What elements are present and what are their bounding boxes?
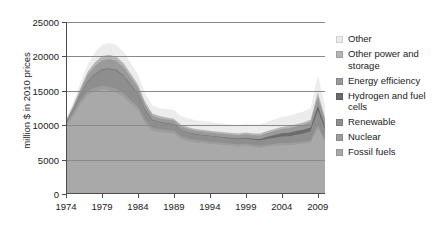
gridline: [66, 22, 325, 23]
plot-area: 0500010000150002000025000 19741979198419…: [66, 22, 325, 194]
legend-item[interactable]: Hydrogen and fuel cells: [336, 90, 436, 113]
y-tick-label: 25000: [33, 17, 66, 28]
legend-item[interactable]: Fossil fuels: [336, 146, 436, 158]
legend-label: Other: [348, 33, 372, 45]
legend-item[interactable]: Other power and storage: [336, 48, 436, 71]
legend-swatch-icon: [336, 78, 343, 85]
legend-item[interactable]: Energy efficiency: [336, 75, 436, 87]
y-tick-label: 10000: [33, 120, 66, 131]
legend-swatch-icon: [336, 93, 343, 100]
legend-swatch-icon: [336, 51, 343, 58]
legend-swatch-icon: [336, 36, 343, 43]
y-tick-label: 20000: [33, 51, 66, 62]
y-tick-mark: [62, 125, 66, 126]
y-tick-mark: [62, 91, 66, 92]
chart-legend: OtherOther power and storageEnergy effic…: [336, 33, 436, 161]
x-tick-mark: [282, 194, 283, 198]
x-tick-mark: [318, 194, 319, 198]
y-axis-line: [66, 22, 67, 194]
stacked-area-series: [66, 22, 325, 194]
x-tick-mark: [246, 194, 247, 198]
x-tick-label: 1989: [163, 201, 184, 212]
x-tick-label: 2004: [271, 201, 292, 212]
y-axis-title: million $ in 2010 prices: [21, 21, 32, 181]
x-tick-mark: [210, 194, 211, 198]
legend-label: Renewable: [348, 116, 396, 128]
legend-label: Fossil fuels: [348, 146, 396, 158]
x-tick-label: 1974: [55, 201, 76, 212]
y-tick-mark: [62, 160, 66, 161]
x-tick-label: 1984: [127, 201, 148, 212]
x-tick-label: 1994: [199, 201, 220, 212]
x-tick-label: 2009: [307, 201, 328, 212]
y-tick-mark: [62, 22, 66, 23]
x-tick-mark: [66, 194, 67, 198]
x-axis-line: [66, 193, 325, 194]
gridline: [66, 56, 325, 57]
y-tick-mark: [62, 56, 66, 57]
chart-figure: million $ in 2010 prices 050001000015000…: [0, 0, 436, 226]
gridline: [66, 125, 325, 126]
legend-item[interactable]: Renewable: [336, 116, 436, 128]
legend-label: Energy efficiency: [348, 75, 420, 87]
x-tick-label: 1999: [235, 201, 256, 212]
gridline: [66, 91, 325, 92]
legend-item[interactable]: Other: [336, 33, 436, 45]
legend-label: Hydrogen and fuel cells: [348, 90, 436, 113]
x-tick-mark: [138, 194, 139, 198]
x-tick-label: 1979: [91, 201, 112, 212]
legend-label: Other power and storage: [348, 48, 436, 71]
legend-item[interactable]: Nuclear: [336, 131, 436, 143]
gridline: [66, 160, 325, 161]
x-tick-mark: [174, 194, 175, 198]
legend-swatch-icon: [336, 149, 343, 156]
legend-label: Nuclear: [348, 131, 381, 143]
y-tick-label: 15000: [33, 85, 66, 96]
legend-swatch-icon: [336, 119, 343, 126]
x-tick-mark: [102, 194, 103, 198]
legend-swatch-icon: [336, 134, 343, 141]
